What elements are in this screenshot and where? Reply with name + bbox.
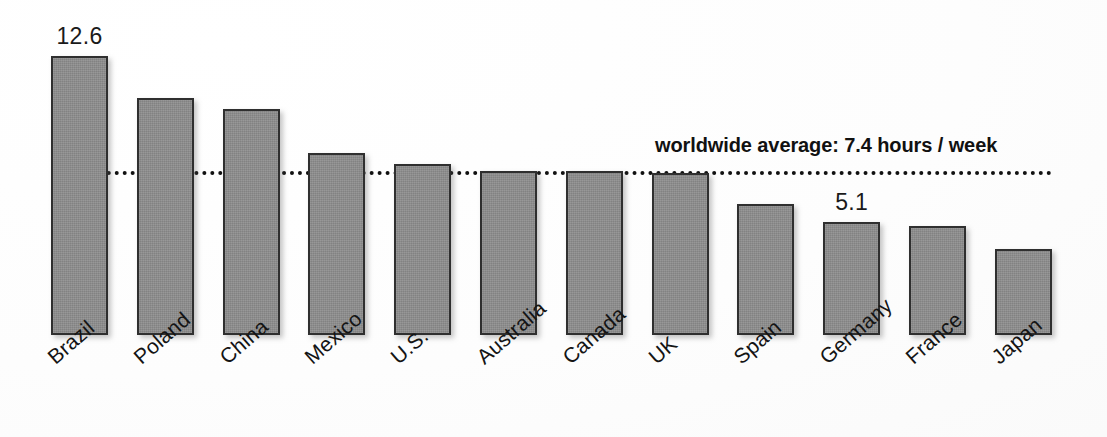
bar-chart: worldwide average: 7.4 hours / week 12.6… xyxy=(0,0,1107,437)
bar-brazil xyxy=(51,56,108,335)
bar-texture xyxy=(139,100,192,333)
bar-texture xyxy=(654,175,707,333)
bar-texture xyxy=(225,111,278,333)
bar-value-label-brazil: 12.6 xyxy=(31,23,128,50)
worldwide-average-label: worldwide average: 7.4 hours / week xyxy=(655,134,997,157)
bar-texture xyxy=(396,166,449,333)
bar-texture xyxy=(53,58,106,333)
bar-spain xyxy=(737,204,794,335)
category-label-uk: UK xyxy=(644,332,682,370)
bar-mexico xyxy=(308,153,365,335)
bar-china xyxy=(223,109,280,335)
bar-texture xyxy=(739,206,792,333)
bar-texture xyxy=(310,155,363,333)
bar-uk xyxy=(652,173,709,335)
bar-poland xyxy=(137,98,194,335)
worldwide-average-reference-line xyxy=(51,171,1052,175)
bar-value-label-germany: 5.1 xyxy=(803,189,900,216)
bar-u-s xyxy=(394,164,451,335)
